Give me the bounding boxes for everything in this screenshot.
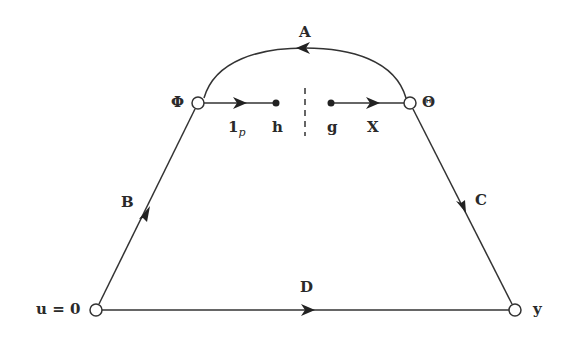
node-phi (192, 97, 204, 109)
edge-B (99, 109, 195, 304)
label-D: D (300, 280, 313, 295)
signal-flow-diagram (0, 0, 575, 346)
label-1p-sub: p (238, 126, 245, 139)
node-h (273, 100, 280, 107)
label-1p: 1p (228, 120, 245, 135)
label-1p-main: 1 (228, 118, 238, 136)
label-h: h (272, 120, 283, 135)
label-g: g (327, 120, 338, 135)
node-theta (404, 97, 416, 109)
label-theta: Θ (422, 95, 435, 110)
label-A: A (299, 25, 311, 40)
label-y: y (533, 302, 542, 317)
label-B: B (121, 195, 134, 210)
node-u (90, 304, 102, 316)
label-C: C (475, 193, 487, 208)
node-y (509, 304, 521, 316)
label-u0: u = 0 (36, 302, 80, 317)
label-phi: Φ (171, 95, 184, 110)
node-g (328, 100, 335, 107)
label-X: X (367, 120, 379, 135)
